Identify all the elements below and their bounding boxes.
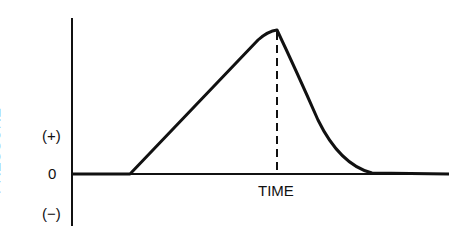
y-tick-plus: (+) <box>42 127 61 144</box>
pressure-curve <box>72 30 449 174</box>
y-tick-minus: (−) <box>42 205 61 222</box>
pressure-time-diagram <box>0 0 471 238</box>
y-axis-label: PRESSURE <box>0 107 3 194</box>
y-tick-zero: 0 <box>48 165 56 182</box>
x-axis-label: TIME <box>258 182 294 199</box>
